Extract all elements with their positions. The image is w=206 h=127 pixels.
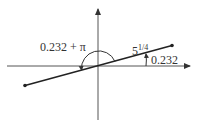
- small-angle-label: 0.232: [151, 54, 178, 66]
- magnitude-exponent: 1/4: [138, 43, 148, 52]
- magnitude-label: 51/4: [132, 45, 148, 57]
- endpoint-right: [170, 44, 174, 48]
- endpoint-left: [23, 84, 27, 88]
- big-angle-label: 0.232 + π: [40, 41, 86, 53]
- diagram-canvas: 0.232 + π 51/4 0.232: [0, 0, 206, 127]
